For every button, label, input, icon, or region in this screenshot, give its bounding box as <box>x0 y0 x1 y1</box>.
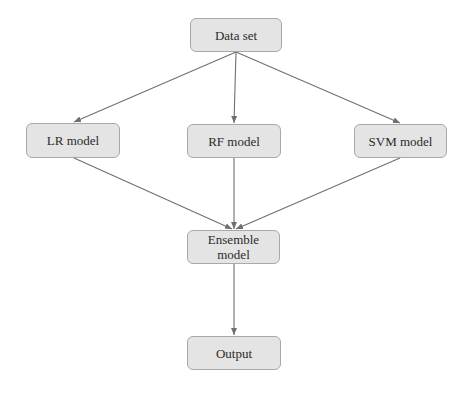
edge-svm-ensemble <box>236 158 400 229</box>
node-ensemble-label-line2: model <box>217 247 250 262</box>
edge-lr-ensemble <box>74 158 232 229</box>
node-svm-model: SVM model <box>354 124 447 158</box>
edge-dataset-svm <box>236 52 400 123</box>
node-lr-model-label: LR model <box>47 133 99 148</box>
node-ensemble-label-line1: Ensemble <box>208 232 259 247</box>
node-ensemble-model: Ensemble model <box>187 230 280 264</box>
node-dataset-label: Data set <box>215 28 257 43</box>
node-rf-model-label: RF model <box>208 134 260 149</box>
node-svm-model-label: SVM model <box>369 134 433 149</box>
node-lr-model: LR model <box>26 123 120 158</box>
node-dataset: Data set <box>190 18 282 52</box>
edges-layer <box>0 0 470 394</box>
edge-dataset-lr <box>74 52 236 122</box>
node-output-label: Output <box>216 346 252 361</box>
edge-dataset-rf <box>234 52 236 123</box>
node-rf-model: RF model <box>187 124 281 158</box>
node-output: Output <box>187 336 281 370</box>
